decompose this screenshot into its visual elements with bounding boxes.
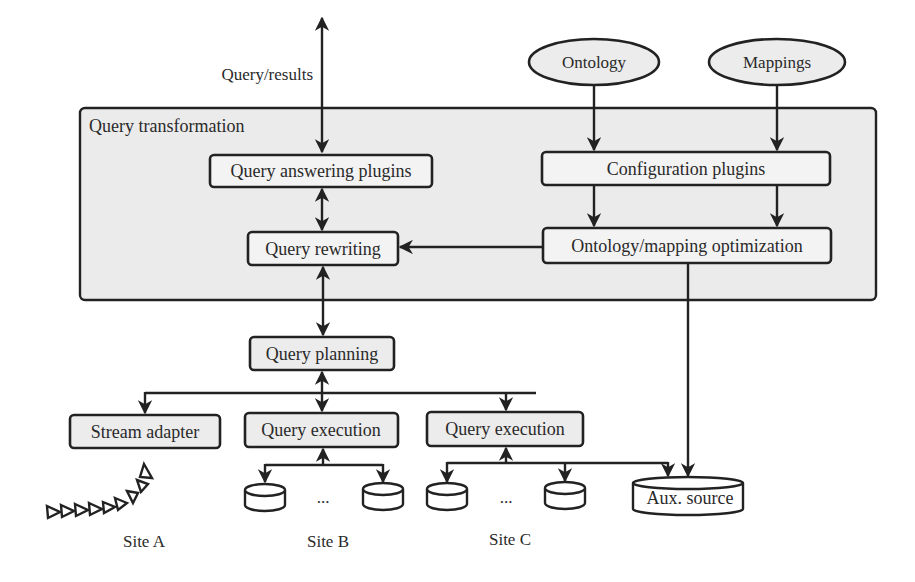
configuration-plugins-box: Configuration plugins xyxy=(542,152,830,185)
query-transformation-container: Query transformation xyxy=(80,108,876,300)
database-icon xyxy=(363,483,403,510)
ellipsis-site-b: ... xyxy=(317,488,330,507)
ontology-mapping-optimization-box: Ontology/mapping optimization xyxy=(543,228,831,263)
query-execution-b-box: Query execution xyxy=(245,413,398,447)
site-b-connectors xyxy=(265,449,383,482)
architecture-diagram: Query transformation Query/results Ontol… xyxy=(0,0,915,582)
aux-source-label: Aux. source xyxy=(647,488,734,508)
database-icon xyxy=(427,483,467,510)
query-planning-label: Query planning xyxy=(266,344,378,364)
ellipsis-site-c: ... xyxy=(500,488,513,507)
query-answering-plugins-label: Query answering plugins xyxy=(231,161,412,181)
query-results-label: Query/results xyxy=(221,65,313,84)
site-a-label: Site A xyxy=(123,532,166,551)
site-b-label: Site B xyxy=(307,532,349,551)
query-execution-c-box: Query execution xyxy=(427,412,583,446)
mappings-label: Mappings xyxy=(743,53,811,72)
ontology-mapping-optimization-label: Ontology/mapping optimization xyxy=(571,236,802,256)
stream-adapter-box: Stream adapter xyxy=(70,415,220,448)
container-label: Query transformation xyxy=(89,116,244,136)
ontology-label: Ontology xyxy=(562,53,627,72)
planning-bus xyxy=(145,372,536,413)
stream-adapter-label: Stream adapter xyxy=(91,422,199,442)
data-stream-icon xyxy=(47,464,152,518)
query-rewriting-label: Query rewriting xyxy=(265,239,380,259)
query-execution-b-label: Query execution xyxy=(261,420,380,440)
aux-source-database: Aux. source xyxy=(633,477,743,515)
database-icon xyxy=(545,482,585,509)
configuration-plugins-label: Configuration plugins xyxy=(607,159,766,179)
ontology-input: Ontology xyxy=(529,39,659,85)
query-execution-c-label: Query execution xyxy=(445,419,564,439)
query-planning-box: Query planning xyxy=(250,337,394,370)
site-c-label: Site C xyxy=(489,530,531,549)
mappings-input: Mappings xyxy=(709,39,845,85)
site-c-connectors xyxy=(447,448,668,482)
query-rewriting-box: Query rewriting xyxy=(248,232,398,265)
database-icon xyxy=(245,484,285,511)
query-answering-plugins-box: Query answering plugins xyxy=(210,155,432,187)
